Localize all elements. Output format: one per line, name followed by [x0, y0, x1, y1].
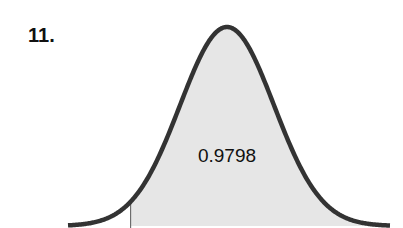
- area-label: 0.9798: [198, 145, 256, 166]
- normal-curve-chart: 0.9798: [0, 0, 403, 228]
